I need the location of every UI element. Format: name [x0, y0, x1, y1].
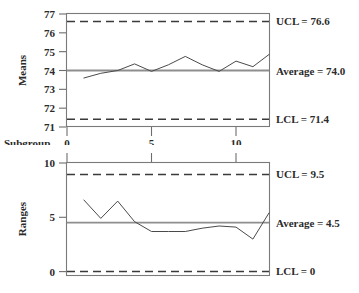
xbar-xtick-10: 10	[231, 137, 243, 145]
range-ucl-annotation: UCL = 9.5	[276, 168, 325, 180]
control-chart-figure: 77 76 75 74 73 72 71 Means UCL = 76.6	[0, 0, 359, 293]
xbar-y-ticks	[59, 14, 66, 127]
xbar-xtick-5: 5	[149, 137, 155, 145]
range-ytick-10: 10	[44, 157, 56, 169]
range-plot-frame	[67, 163, 270, 276]
xbar-ucl-annotation: UCL = 76.6	[276, 15, 330, 27]
range-data-line	[84, 200, 269, 239]
range-ytick-5: 5	[50, 211, 56, 223]
xbar-ytick-71: 71	[44, 121, 55, 133]
xbar-chart-svg: 77 76 75 74 73 72 71 Means UCL = 76.6	[0, 0, 359, 145]
xbar-data-line	[84, 55, 269, 79]
xbar-ytick-75: 75	[44, 46, 56, 58]
range-x-ticks	[67, 153, 236, 162]
xbar-xtick-0: 0	[64, 137, 70, 145]
xbar-ytick-77: 77	[44, 8, 56, 20]
range-chart-svg: 10 5 0 Ranges UCL = 9.5 Average = 4.5 LC…	[0, 150, 359, 293]
range-lcl-annotation: LCL = 0	[276, 265, 316, 277]
xbar-x-ticks	[67, 127, 236, 136]
xbar-center-annotation: Average = 74.0	[276, 65, 346, 77]
range-center-annotation: Average = 4.5	[276, 217, 340, 229]
xbar-y-axis-title: Means	[16, 54, 28, 86]
xbar-ytick-73: 73	[44, 83, 56, 95]
range-y-ticks	[59, 163, 66, 272]
xbar-ytick-76: 76	[44, 27, 56, 39]
x-axis-title: Subgroup	[4, 137, 50, 145]
xbar-ytick-74: 74	[44, 65, 56, 77]
xbar-lcl-annotation: LCL = 71.4	[276, 113, 330, 125]
xbar-ytick-72: 72	[44, 102, 56, 114]
xbar-chart-panel: 77 76 75 74 73 72 71 Means UCL = 76.6	[0, 0, 359, 145]
range-ytick-0: 0	[50, 266, 56, 278]
range-chart-panel: 10 5 0 Ranges UCL = 9.5 Average = 4.5 LC…	[0, 150, 359, 293]
range-y-axis-title: Ranges	[16, 201, 28, 236]
